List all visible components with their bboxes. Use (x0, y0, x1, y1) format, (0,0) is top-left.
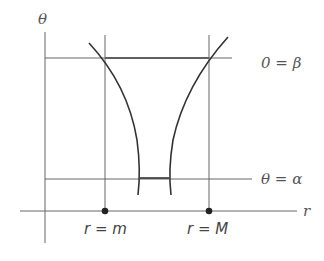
theta-alpha-label: θ = α (261, 170, 302, 188)
theta-beta-label: 0 = β (261, 54, 302, 72)
point-r-M (206, 208, 213, 215)
r-M-label: r = M (187, 220, 228, 238)
left-boundary-curve (89, 43, 139, 195)
point-r-m (102, 208, 109, 215)
r-m-label: r = m (84, 220, 127, 238)
r-axis-label: r (303, 202, 311, 220)
right-boundary-curve (170, 37, 228, 195)
theta-axis-label: θ (38, 10, 47, 28)
diagram-canvas: θ r 0 = β θ = α r = m r = M (0, 0, 324, 261)
